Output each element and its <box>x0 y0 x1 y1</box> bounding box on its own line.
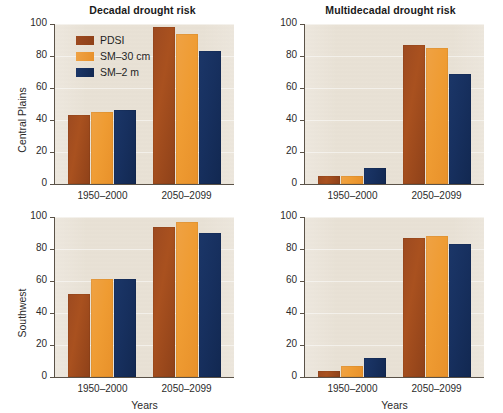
bar-pdsi-0 <box>318 176 340 184</box>
legend-label-pdsi: PDSI <box>100 34 125 47</box>
y-tick-label-40: 40 <box>267 113 297 124</box>
bar-sm30-0 <box>341 366 363 377</box>
y-tick-60 <box>300 88 304 89</box>
x-tick-label-1: 2050–2099 <box>392 383 482 394</box>
x-axis-southwest-decadal <box>50 377 234 378</box>
y-tick-20 <box>50 345 54 346</box>
bar-pdsi-1 <box>403 45 425 184</box>
x-tick-label-1: 2050–2099 <box>392 190 482 201</box>
y-tick-80 <box>300 249 304 250</box>
x-tick-label-0: 1950–2000 <box>307 190 397 201</box>
y-tick-20 <box>50 152 54 153</box>
y-axis-southwest-decadal <box>54 217 55 378</box>
plot-area-southwest-multidecadal <box>305 217 484 377</box>
y-tick-20 <box>300 152 304 153</box>
x-tick-label-1: 2050–2099 <box>142 190 232 201</box>
bar-pdsi-1 <box>403 238 425 377</box>
bar-pdsi-1 <box>153 227 175 377</box>
drought-risk-figure: Decadal drought riskMultidecadal drought… <box>0 0 503 413</box>
bar-sm30-1 <box>426 236 448 377</box>
y-tick-60 <box>50 88 54 89</box>
row-label-southwest: Southwest <box>16 253 28 373</box>
y-tick-100 <box>300 24 304 25</box>
y-tick-40 <box>50 313 54 314</box>
bar-sm30-1 <box>176 34 198 184</box>
bar-pdsi-0 <box>68 115 90 184</box>
y-tick-label-100: 100 <box>17 17 47 28</box>
bar-sm2-1 <box>449 244 471 377</box>
legend-swatch-sm30 <box>76 52 94 61</box>
bar-sm30-0 <box>341 176 363 184</box>
y-tick-label-20: 20 <box>267 145 297 156</box>
y-tick-40 <box>300 313 304 314</box>
legend-label-sm30: SM–30 cm <box>100 50 150 63</box>
y-tick-0 <box>300 377 304 378</box>
bar-sm30-1 <box>426 48 448 184</box>
y-axis-central-plains-decadal <box>54 24 55 185</box>
bar-sm2-0 <box>364 168 386 184</box>
bar-sm2-0 <box>114 279 136 377</box>
legend-swatch-pdsi <box>76 36 94 45</box>
row-label-central-plains: Central Plains <box>16 60 28 180</box>
y-tick-100 <box>50 24 54 25</box>
bar-sm2-1 <box>449 74 471 184</box>
x-tick-label-0: 1950–2000 <box>57 383 147 394</box>
y-tick-label-80: 80 <box>17 49 47 60</box>
y-tick-label-0: 0 <box>267 370 297 381</box>
y-axis-southwest-multidecadal <box>304 217 305 378</box>
legend-swatch-sm2 <box>76 68 94 77</box>
bar-sm2-1 <box>199 233 221 377</box>
y-tick-80 <box>300 56 304 57</box>
y-tick-label-80: 80 <box>267 242 297 253</box>
x-axis-southwest-multidecadal <box>300 377 484 378</box>
gridline-100 <box>305 217 484 218</box>
bar-sm2-0 <box>364 358 386 377</box>
x-axis-title-southwest-multidecadal: Years <box>305 399 484 411</box>
y-tick-label-0: 0 <box>267 177 297 188</box>
x-axis-central-plains-multidecadal <box>300 184 484 185</box>
y-tick-40 <box>50 120 54 121</box>
gridline-80 <box>305 56 484 57</box>
y-tick-label-100: 100 <box>267 17 297 28</box>
x-tick-label-1: 2050–2099 <box>142 383 232 394</box>
plot-area-southwest-decadal <box>55 217 234 377</box>
bar-sm2-1 <box>199 51 221 184</box>
y-tick-0 <box>50 184 54 185</box>
y-tick-40 <box>300 120 304 121</box>
y-tick-60 <box>50 281 54 282</box>
x-axis-central-plains-decadal <box>50 184 234 185</box>
x-tick-label-0: 1950–2000 <box>307 383 397 394</box>
y-tick-label-80: 80 <box>17 242 47 253</box>
bar-pdsi-0 <box>68 294 90 377</box>
bar-sm30-0 <box>91 279 113 377</box>
plot-area-central-plains-multidecadal <box>305 24 484 184</box>
y-tick-label-100: 100 <box>267 210 297 221</box>
bar-sm30-0 <box>91 112 113 184</box>
y-tick-label-60: 60 <box>267 274 297 285</box>
y-tick-label-100: 100 <box>17 210 47 221</box>
gridline-100 <box>55 24 234 25</box>
y-tick-label-60: 60 <box>267 81 297 92</box>
panel-title-multidecadal: Multidecadal drought risk <box>278 4 503 16</box>
y-tick-label-40: 40 <box>267 306 297 317</box>
bar-sm2-0 <box>114 110 136 184</box>
plot-area-central-plains-decadal <box>55 24 234 184</box>
y-tick-60 <box>300 281 304 282</box>
y-tick-label-20: 20 <box>267 338 297 349</box>
y-tick-0 <box>300 184 304 185</box>
y-tick-label-80: 80 <box>267 49 297 60</box>
y-axis-central-plains-multidecadal <box>304 24 305 185</box>
y-tick-100 <box>50 217 54 218</box>
y-tick-100 <box>300 217 304 218</box>
bar-pdsi-1 <box>153 27 175 184</box>
panel-title-decadal: Decadal drought risk <box>30 4 255 16</box>
y-tick-0 <box>50 377 54 378</box>
x-tick-label-0: 1950–2000 <box>57 190 147 201</box>
y-tick-20 <box>300 345 304 346</box>
bar-sm30-1 <box>176 222 198 377</box>
y-tick-80 <box>50 249 54 250</box>
x-axis-title-southwest-decadal: Years <box>55 399 234 411</box>
legend-label-sm2: SM–2 m <box>100 66 139 79</box>
gridline-100 <box>55 217 234 218</box>
gridline-100 <box>305 24 484 25</box>
